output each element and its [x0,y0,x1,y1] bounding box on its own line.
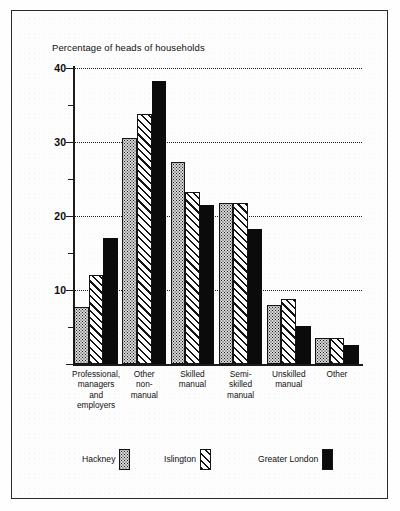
legend-swatch [322,449,333,470]
bar [89,275,104,364]
legend-swatch [200,449,211,470]
y-tick-40 [66,68,73,69]
x-axis-label-line: Professional, [72,369,120,379]
legend-item-greater-london: Greater London [258,448,333,470]
y-minor-tick-35 [68,105,73,106]
bar-group [74,68,118,364]
chart-figure: Percentage of heads of households 102030… [0,0,400,511]
x-axis-category-labels: Professional,managersandemployersOtherno… [73,369,363,431]
y-minor-tick-5 [68,327,73,328]
x-axis-label: Skilledmanual [168,369,216,390]
bar [267,305,282,364]
chart-title: Percentage of heads of households [52,42,205,53]
bar [200,205,215,364]
figure-frame: Percentage of heads of households 102030… [11,10,388,499]
legend-label: Greater London [258,454,318,464]
x-axis-label-line: non- [120,379,168,389]
legend-item-hackney: Hackney [82,448,130,470]
bar-group [315,68,359,364]
x-axis-line [73,364,363,366]
y-tick-label-20: 20 [54,210,66,222]
legend-label: Hackney [82,454,115,464]
x-axis-label-line: Other [120,369,168,379]
bar [74,307,89,364]
x-axis-label-line: manual [217,390,265,400]
x-axis-label-line: employers [72,400,120,410]
y-tick-label-10: 10 [54,284,66,296]
bar [344,345,359,364]
legend-label: Islington [164,454,196,464]
bar [315,338,330,364]
chart-legend: HackneyIslingtonGreater London [82,448,372,472]
x-axis-label-line: Skilled [168,369,216,379]
x-axis-label-line: Unskilled [265,369,313,379]
y-tick-30 [66,142,73,143]
legend-item-islington: Islington [164,448,211,470]
x-axis-label-line: manual [168,379,216,389]
y-tick-label-40: 40 [54,62,66,74]
bar [122,138,137,364]
x-axis-label-line: manual [120,390,168,400]
x-axis-label-line: manual [265,379,313,389]
bar [171,162,186,364]
bar [219,203,234,364]
bar [103,238,118,364]
y-tick-label-30: 30 [54,136,66,148]
bar [233,203,248,364]
x-axis-label-line: Semi- [217,369,265,379]
y-tick-20 [66,216,73,217]
x-axis-label: Semi-skilledmanual [217,369,265,400]
bar-group [267,68,311,364]
x-axis-label-line: managers [72,379,120,389]
x-axis-label: Other [313,369,361,379]
y-minor-tick-25 [68,179,73,180]
bar [137,114,152,364]
bar-group [171,68,215,364]
y-axis-labels: 10203040 [40,68,66,364]
x-axis-label: Unskilledmanual [265,369,313,390]
x-axis-label-line: skilled [217,379,265,389]
legend-swatch [119,449,130,470]
bar [330,338,345,364]
y-minor-tick-15 [68,253,73,254]
bar [248,229,263,364]
bar [185,192,200,364]
bar [281,299,296,364]
bar [296,326,311,364]
x-axis-label: Othernon-manual [120,369,168,400]
plot-area [73,68,362,364]
bar [152,81,167,364]
bar-group [219,68,263,364]
x-axis-label-line: and [72,390,120,400]
bar-group [122,68,166,364]
x-axis-label-line: Other [313,369,361,379]
y-tick-0 [66,364,73,365]
x-axis-label: Professional,managersandemployers [72,369,120,411]
y-tick-10 [66,290,73,291]
